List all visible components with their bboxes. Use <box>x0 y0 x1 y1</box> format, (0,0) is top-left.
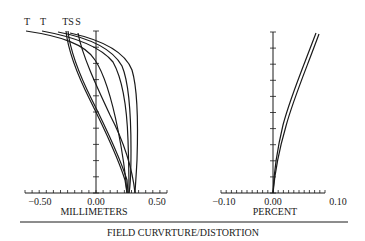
curve-label-ts: TS <box>62 16 74 27</box>
field-curvature-chart: T T TS S −0.50 0.00 0.50 MILLIMETERS <box>24 16 167 217</box>
field-curvature-distortion-figure: T T TS S −0.50 0.00 0.50 MILLIMETERS −0.… <box>0 0 365 241</box>
curve-label-t1: T <box>24 16 30 27</box>
curve-label-t2: T <box>40 16 46 27</box>
distortion-curve-1 <box>273 33 316 193</box>
curve-label-s: S <box>75 16 81 27</box>
distortion-chart: −0.10 0.00 0.10 PERCENT <box>212 32 346 217</box>
tangential-curve-2 <box>42 31 129 193</box>
curve-labels: T T TS S <box>24 16 81 27</box>
tangential-curve-3 <box>58 32 131 193</box>
right-tick-label-pos: 0.10 <box>329 196 347 207</box>
tangential-curve-1 <box>26 31 127 193</box>
left-tick-label-pos: 0.50 <box>148 196 166 207</box>
figure-title: FIELD CURVRTURE/DISTORTION <box>107 227 259 238</box>
sagittal-curve-1b <box>68 31 128 193</box>
sagittal-curve-3 <box>70 33 137 193</box>
distortion-curve-2 <box>273 34 319 193</box>
right-tick-label-neg: −0.10 <box>212 196 235 207</box>
left-tick-label-neg: −0.50 <box>28 196 51 207</box>
left-x-axis-label: MILLIMETERS <box>60 206 127 217</box>
distortion-curves <box>273 33 319 193</box>
right-x-axis-label: PERCENT <box>253 206 297 217</box>
field-curves <box>26 31 137 193</box>
